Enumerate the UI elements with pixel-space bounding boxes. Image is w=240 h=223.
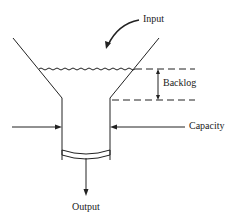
funnel-bottom-cap <box>62 150 110 154</box>
backlog-surface-wave <box>39 68 135 70</box>
input-arrow <box>108 20 139 45</box>
funnel-right-wall <box>110 38 159 160</box>
output-label: Output <box>72 201 100 212</box>
input-label: Input <box>143 13 164 24</box>
capacity-label: Capacity <box>189 120 225 131</box>
backlog-label: Backlog <box>163 77 196 88</box>
funnel-diagram <box>0 0 240 223</box>
funnel-left-wall <box>13 38 62 160</box>
